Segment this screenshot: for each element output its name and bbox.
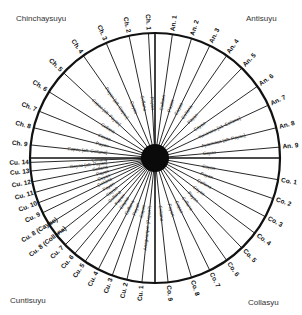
ceque-group-label: Capac [alt: Collana] — [67, 146, 107, 155]
ceque-label: Cu. 2 — [118, 281, 128, 298]
ceque-label: An. 4 — [225, 37, 240, 54]
ceque-label: Co. 8 — [190, 279, 201, 297]
ceque-label: Co. 9 — [166, 285, 175, 302]
ceque-label: Ch. 5 — [48, 57, 65, 73]
ceque-label: An. 1 — [169, 14, 178, 31]
ceque-label: Cu. 11 — [14, 189, 35, 201]
ceque-label: Co. 2 — [275, 196, 293, 208]
ceque-label: Cu. 4 — [86, 270, 100, 288]
ceque-group-label: Payan — [95, 141, 109, 149]
ceque-label: Cu. 12 — [11, 178, 32, 189]
ceque-group-label: Payan — [166, 98, 175, 112]
ceque-group-label: Collana — [159, 94, 166, 111]
ceque-label: An. 8 — [278, 119, 295, 130]
ceque-label: Cu. 13 — [10, 167, 31, 176]
ceque-group-label: Cayao — [129, 101, 139, 116]
center-hub — [141, 144, 169, 172]
ceque-group-label: Collana — [91, 157, 107, 163]
ceque-label: Ch. 2 — [122, 16, 132, 33]
ceque-label: An. 9 — [282, 141, 299, 149]
ceque-label: An. 7 — [269, 93, 287, 106]
ceque-label: Co. 3 — [267, 214, 285, 228]
ceque-line — [155, 158, 278, 180]
ceque-label: Co. 6 — [226, 260, 241, 277]
ceque-group-label: Payan — [167, 203, 176, 217]
ceque-label: Ch. 1 — [145, 14, 153, 31]
ceque-label: Ch. 6 — [31, 78, 49, 93]
ceque-line — [155, 158, 255, 233]
ceque-label: Cu. 1 — [136, 285, 145, 302]
ceque-label: Co. 4 — [256, 232, 273, 247]
ceque-label: Cu. 7 — [48, 244, 65, 260]
ceque-label: Cu. 6 — [59, 253, 75, 270]
ceque-line — [155, 158, 242, 248]
ceque-label: Ch. 8 — [15, 119, 32, 130]
ceque-label: Cu. 5 — [71, 261, 86, 278]
ceque-line — [155, 147, 280, 158]
ceque-diagram: An. 1CollanaAn. 2PayanAn. 3CayaoAn. 4Col… — [0, 0, 302, 315]
ceque-label: An. 5 — [241, 51, 257, 68]
ceque-line — [155, 158, 273, 199]
ceque-group-label: Cayao — [202, 164, 216, 171]
ceque-label: Cu. 9 — [24, 210, 42, 223]
ceque-group-label: Payan — [150, 97, 156, 111]
ceque-label: Cu. 3 — [102, 277, 114, 295]
ceque-label: Ch. 9 — [12, 139, 29, 148]
ceque-label: Co. 1 — [281, 176, 298, 186]
ceque-label: Ch. 3 — [96, 24, 109, 42]
ceque-line — [148, 33, 155, 158]
ceque-label: An. 6 — [257, 72, 274, 87]
ceque-group-label: Cayao — [174, 200, 185, 215]
ceque-label: Co. 7 — [209, 271, 222, 289]
ceque-group-label: Collana — [140, 95, 148, 112]
ceque-label: An. 3 — [207, 26, 220, 44]
ceque-label: Co. 5 — [242, 247, 258, 264]
ceque-label: An. 2 — [188, 19, 199, 37]
ceque-label: Cu. 14 — [9, 158, 29, 166]
ceque-label: Ch. 7 — [21, 100, 39, 113]
ceque-group-label: Cayao — [193, 120, 207, 132]
ceque-label: Ch. 4 — [70, 38, 85, 55]
ceque-line — [155, 68, 242, 158]
ceque-group-label: Cayao — [203, 150, 217, 156]
ceque-group-label: Collana — [158, 205, 165, 221]
